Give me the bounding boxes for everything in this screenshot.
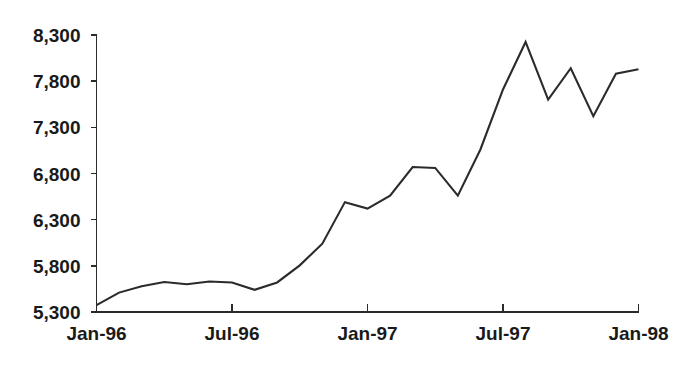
chart-canvas: 5,3005,8006,3006,8007,3007,8008,300 Jan-… bbox=[0, 0, 691, 376]
x-axis-tick-label: Jan-97 bbox=[337, 323, 397, 344]
x-axis-tick-labels: Jan-96Jul-96Jan-97Jul-97Jan-98 bbox=[66, 323, 668, 344]
y-axis-tick-marks bbox=[91, 35, 97, 312]
line-chart: 5,3005,8006,3006,8007,3007,8008,300 Jan-… bbox=[0, 0, 691, 376]
data-series-line bbox=[97, 42, 639, 305]
y-axis-tick-labels: 5,3005,8006,3006,8007,3007,8008,300 bbox=[33, 25, 81, 323]
x-axis-tick-label: Jul-97 bbox=[476, 323, 531, 344]
y-axis-tick-label: 5,800 bbox=[33, 256, 81, 277]
x-axis-tick-label: Jan-98 bbox=[608, 323, 668, 344]
y-axis-tick-label: 6,300 bbox=[33, 210, 81, 231]
x-axis-tick-label: Jul-96 bbox=[205, 323, 260, 344]
y-axis-tick-label: 5,300 bbox=[33, 302, 81, 323]
y-axis-tick-label: 7,800 bbox=[33, 71, 81, 92]
x-axis-tick-marks bbox=[97, 304, 639, 312]
y-axis-tick-label: 7,300 bbox=[33, 117, 81, 138]
x-axis-tick-label: Jan-96 bbox=[66, 323, 126, 344]
y-axis-tick-label: 8,300 bbox=[33, 25, 81, 46]
y-axis-tick-label: 6,800 bbox=[33, 164, 81, 185]
